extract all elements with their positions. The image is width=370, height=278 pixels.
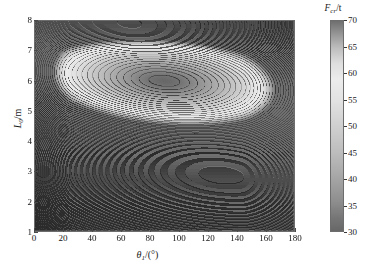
colorbar-tick-label: 35	[348, 201, 357, 210]
y-tick-mark	[34, 20, 38, 21]
y-tick-mark	[34, 232, 38, 233]
x-tick-mark	[295, 228, 296, 232]
plot-area	[34, 20, 295, 232]
x-tick-mark	[266, 228, 267, 232]
y-tick-label: 5	[22, 106, 32, 115]
y-tick-mark	[34, 111, 38, 112]
colorbar-tick-label: 70	[348, 16, 357, 25]
x-tick-mark	[208, 228, 209, 232]
colorbar-tick-mark	[344, 20, 347, 21]
x-tick-mark	[237, 228, 238, 232]
y-axis-label-unit: /m	[12, 109, 23, 120]
x-tick-label: 100	[172, 234, 186, 243]
y-tick-label: 8	[22, 16, 32, 25]
colorbar-tick-label: 65	[348, 42, 357, 51]
colorbar-tick-label: 60	[348, 69, 357, 78]
x-tick-mark	[150, 228, 151, 232]
colorbar-title-unit: /t	[336, 3, 341, 13]
colorbar	[330, 20, 344, 232]
contour-canvas	[35, 21, 294, 231]
x-tick-label: 40	[88, 234, 97, 243]
y-tick-mark	[34, 171, 38, 172]
x-tick-label: 0	[32, 234, 37, 243]
contour-field	[35, 21, 294, 231]
colorbar-tick-mark	[344, 126, 347, 127]
y-tick-label: 2	[22, 197, 32, 206]
y-tick-label: 7	[22, 46, 32, 55]
x-tick-mark	[121, 228, 122, 232]
colorbar-tick-label: 50	[348, 122, 357, 131]
y-axis-label-sub: 0	[17, 119, 25, 123]
x-tick-label: 120	[201, 234, 215, 243]
x-axis-label: θ1/(°)	[0, 249, 295, 262]
colorbar-tick-mark	[344, 206, 347, 207]
y-axis-label-var: L	[12, 123, 23, 129]
colorbar-tick-mark	[344, 100, 347, 101]
colorbar-tick-label: 45	[348, 148, 357, 157]
x-tick-label: 20	[59, 234, 68, 243]
x-tick-label: 180	[288, 234, 302, 243]
x-tick-mark	[92, 228, 93, 232]
colorbar-tick-mark	[344, 153, 347, 154]
y-tick-label: 3	[22, 167, 32, 176]
colorbar-tick-mark	[344, 179, 347, 180]
y-tick-label: 1	[22, 228, 32, 237]
colorbar-tick-label: 30	[348, 228, 357, 237]
y-tick-label: 6	[22, 76, 32, 85]
colorbar-tick-mark	[344, 232, 347, 233]
x-axis-label-unit: /(°)	[145, 249, 158, 260]
y-tick-mark	[34, 141, 38, 142]
colorbar-tick-label: 55	[348, 95, 357, 104]
colorbar-tick-mark	[344, 73, 347, 74]
colorbar-tick-label: 40	[348, 175, 357, 184]
y-tick-mark	[34, 202, 38, 203]
x-tick-label: 140	[230, 234, 244, 243]
colorbar-tick-mark	[344, 47, 347, 48]
contour-figure: θ1/(°) L0/m Fcr/t 0204060801001201401601…	[0, 0, 370, 278]
colorbar-gradient	[330, 20, 344, 232]
x-tick-label: 80	[146, 234, 155, 243]
colorbar-canvas	[331, 21, 343, 231]
x-tick-label: 60	[117, 234, 126, 243]
y-tick-mark	[34, 81, 38, 82]
x-tick-label: 160	[259, 234, 273, 243]
colorbar-title: Fcr/t	[300, 3, 366, 15]
x-tick-mark	[63, 228, 64, 232]
y-tick-mark	[34, 50, 38, 51]
x-tick-mark	[179, 228, 180, 232]
y-tick-label: 4	[22, 137, 32, 146]
